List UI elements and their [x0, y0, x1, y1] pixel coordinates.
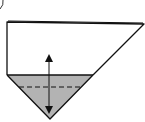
- paper-shaded-region: [7, 75, 93, 119]
- origami-diagram: [0, 0, 145, 122]
- step-number-fragment: [0, 0, 3, 9]
- paper-white-region: [7, 22, 144, 75]
